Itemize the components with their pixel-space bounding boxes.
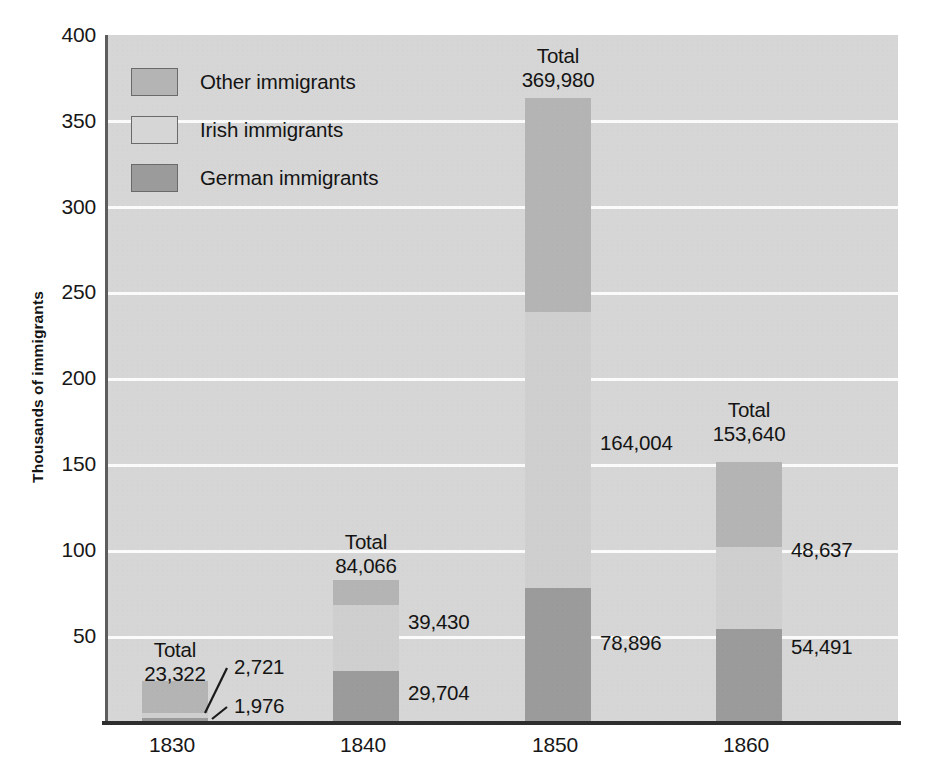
label-1850-total-word: Total [522,44,595,68]
label-1860-total: Total 153,640 [713,398,786,446]
y-tick-50: 50 [24,624,96,648]
y-tick-150: 150 [24,452,96,476]
label-1830-german: 1,976 [234,694,284,718]
bar-1860[interactable] [716,462,782,721]
gridline-300 [108,206,898,209]
label-1830-irish: 2,721 [234,655,284,679]
x-tick-1860: 1860 [723,733,769,757]
bar-1840-other-segment[interactable] [333,580,399,605]
legend-label-irish: Irish immigrants [200,118,343,142]
bar-1850-other-segment[interactable] [525,98,591,312]
x-axis-line [102,721,901,725]
leader-line-1976 [212,707,227,719]
label-1840-total-value: 84,066 [335,554,397,577]
immigration-stacked-bar-chart: Thousands of immigrants 400 350 300 250 … [0,0,925,776]
label-1860-german: 54,491 [791,635,853,659]
legend-item-other[interactable]: Other immigrants [131,58,378,106]
label-1850-total: Total 369,980 [522,44,595,92]
legend: Other immigrants Irish immigrants German… [131,58,378,202]
y-tick-100: 100 [24,538,96,562]
y-tick-350: 350 [24,109,96,133]
legend-swatch-other-icon [131,68,178,96]
label-1850-german: 78,896 [600,631,662,655]
label-1830-total: Total 23,322 [144,638,206,686]
bar-1860-irish-segment[interactable] [716,547,782,629]
label-1840-total-word: Total [335,530,397,554]
bar-1860-other-segment[interactable] [716,462,782,547]
legend-swatch-irish-icon [131,116,178,144]
legend-label-german: German immigrants [200,166,378,190]
label-1830-total-value: 23,322 [144,662,206,685]
bar-1850[interactable] [525,98,591,721]
bar-1860-german-segment[interactable] [716,629,782,721]
y-tick-400: 400 [24,23,96,47]
label-1840-total: Total 84,066 [335,530,397,578]
bar-1830[interactable] [142,681,208,721]
gridline-200 [108,378,898,381]
legend-swatch-german-icon [131,164,178,192]
y-tick-300: 300 [24,195,96,219]
y-axis-tick-labels: 400 350 300 250 200 150 100 50 [24,0,96,776]
label-1860-irish: 48,637 [791,538,853,562]
label-1850-irish: 164,004 [600,431,673,455]
bar-1840-irish-segment[interactable] [333,605,399,671]
label-1830-total-word: Total [144,638,206,662]
x-tick-1850: 1850 [532,733,578,757]
legend-item-irish[interactable]: Irish immigrants [131,106,378,154]
x-tick-1840: 1840 [340,733,386,757]
bar-1830-irish-segment[interactable] [142,713,208,718]
label-1860-total-value: 153,640 [713,422,786,445]
y-tick-250: 250 [24,280,96,304]
legend-item-german[interactable]: German immigrants [131,154,378,202]
plot-area: Total 23,322 2,721 1,976 Total 84,066 39… [105,35,898,721]
label-1850-total-value: 369,980 [522,68,595,91]
bar-1850-irish-segment[interactable] [525,312,591,588]
bar-1850-german-segment[interactable] [525,588,591,721]
x-tick-1830: 1830 [149,733,195,757]
label-1840-irish: 39,430 [408,610,470,634]
y-tick-200: 200 [24,366,96,390]
legend-label-other: Other immigrants [200,70,356,94]
bar-1840[interactable] [333,580,399,722]
label-1860-total-word: Total [713,398,786,422]
bar-1840-german-segment[interactable] [333,671,399,721]
gridline-250 [108,292,898,295]
leader-line-2721 [205,668,227,713]
label-1840-german: 29,704 [408,681,470,705]
